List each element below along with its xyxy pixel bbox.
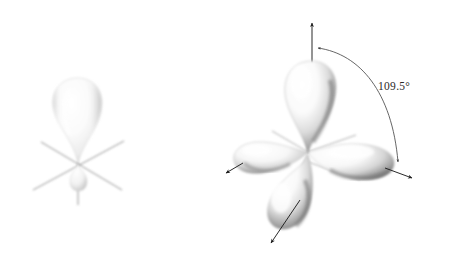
bond-angle-label: 109.5° <box>378 80 410 92</box>
sp3-orbital-figure: 109.5° <box>0 0 452 274</box>
